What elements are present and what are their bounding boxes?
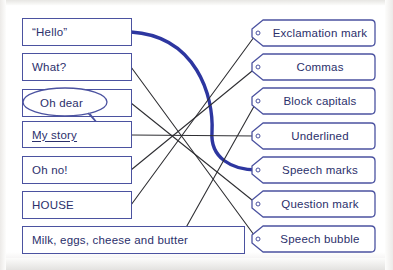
right-item-label: Underlined: [277, 130, 349, 142]
left-item-label: Milk, eggs, cheese and butter: [32, 234, 188, 246]
left-item-label: “Hello”: [32, 26, 67, 38]
left-item-mystory[interactable]: My story: [22, 121, 132, 148]
right-item-label: Speech marks: [268, 164, 358, 176]
paper-edge-bottom: [0, 258, 393, 270]
paper-edge-top: [0, 0, 393, 5]
right-item-exclamation[interactable]: Exclamation mark: [250, 19, 376, 47]
worksheet-canvas: “Hello”What?Oh dearMy storyOh no!HOUSEMi…: [0, 0, 393, 270]
right-item-label: Exclamation mark: [259, 27, 368, 39]
left-item-label: My story: [32, 129, 77, 141]
right-item-label: Block capitals: [269, 95, 356, 107]
right-item-label: Commas: [282, 61, 343, 73]
left-item-ohdear[interactable]: Oh dear: [22, 89, 132, 117]
right-item-label: Speech bubble: [266, 233, 359, 245]
left-item-house[interactable]: HOUSE: [22, 191, 132, 219]
left-item-label: What?: [32, 61, 66, 73]
right-item-commas[interactable]: Commas: [250, 53, 376, 81]
left-item-label: Oh dear: [32, 97, 83, 109]
left-item-what[interactable]: What?: [22, 53, 132, 81]
left-item-ohno[interactable]: Oh no!: [22, 156, 132, 184]
right-item-label: Question mark: [267, 198, 358, 210]
right-item-question[interactable]: Question mark: [250, 190, 376, 218]
right-item-bubble[interactable]: Speech bubble: [250, 225, 376, 253]
left-item-label: Oh no!: [32, 164, 68, 176]
paper-edge-right: [385, 0, 393, 270]
left-item-label: HOUSE: [32, 199, 74, 211]
right-item-blockcaps[interactable]: Block capitals: [250, 87, 376, 115]
left-item-hello[interactable]: “Hello”: [22, 18, 132, 46]
right-item-underlined[interactable]: Underlined: [250, 122, 376, 150]
paper-edge-left: [0, 0, 6, 270]
left-item-milk[interactable]: Milk, eggs, cheese and butter: [22, 226, 245, 254]
right-item-speechmarks[interactable]: Speech marks: [250, 156, 376, 184]
